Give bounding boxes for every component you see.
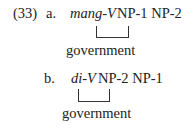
item-b-annotation: government [62, 105, 131, 121]
item-a-annotation: government [66, 42, 135, 58]
item-b-label: b. [44, 70, 55, 86]
government-bracket-a [96, 26, 129, 38]
item-a-label: a. [46, 5, 56, 21]
item-b-verb: di-V [71, 70, 96, 86]
example-number: (33) [13, 5, 37, 21]
item-b-args: NP-2 NP-1 [98, 70, 163, 86]
item-a-args: NP-1 NP-2 [117, 5, 182, 21]
government-bracket-b [78, 89, 110, 102]
item-a-verb: mang-V [70, 5, 116, 21]
